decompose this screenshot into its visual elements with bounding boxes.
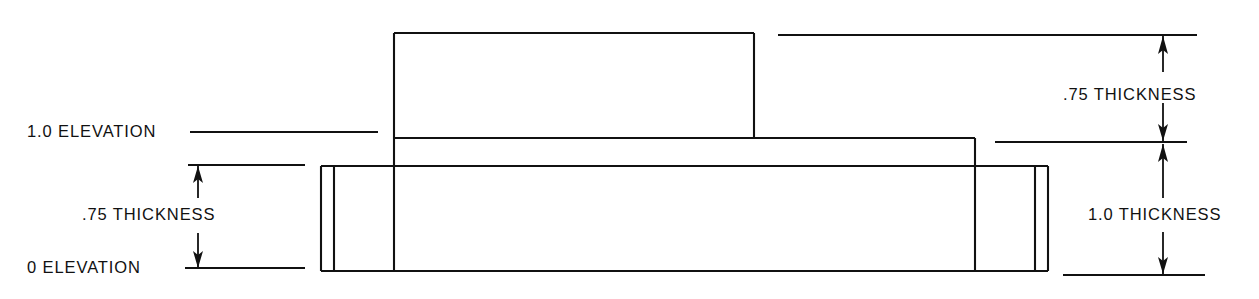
right-extension-lines	[778, 35, 1205, 275]
upper-block	[394, 33, 975, 271]
drawing-text-labels: 1.0 ELEVATION 0 ELEVATION .75 THICKNESS …	[27, 85, 1221, 276]
part-geometry	[321, 33, 1048, 271]
right-upper-thickness-label: .75 THICKNESS	[1063, 85, 1196, 103]
left-elevation-leaders	[185, 132, 378, 268]
lower-block	[321, 166, 1048, 271]
left-thickness-label: .75 THICKNESS	[82, 205, 215, 223]
base-elevation-label: 0 ELEVATION	[27, 258, 141, 276]
right-lower-thickness-label: 1.0 THICKNESS	[1088, 205, 1221, 223]
engineering-drawing-canvas: 1.0 ELEVATION 0 ELEVATION .75 THICKNESS …	[0, 0, 1259, 299]
upper-elevation-label: 1.0 ELEVATION	[27, 122, 156, 140]
drawing-svg: 1.0 ELEVATION 0 ELEVATION .75 THICKNESS …	[0, 0, 1259, 299]
